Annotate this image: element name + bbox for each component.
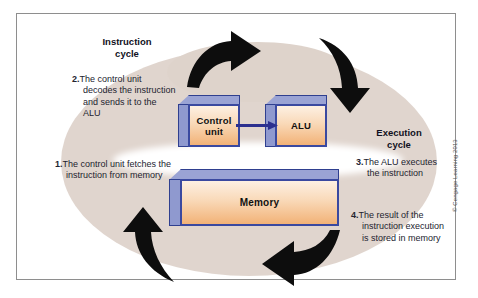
instruction-cycle-line2: cycle xyxy=(115,48,139,59)
figure-frame: Control unit ALU Memory xyxy=(16,13,456,280)
step-4-text: 4.The result of the instruction executio… xyxy=(351,210,451,244)
alu-label: ALU xyxy=(291,120,311,131)
control-unit-label-line2: unit xyxy=(205,126,223,137)
step-1-text: 1.The control unit fetches the instructi… xyxy=(55,159,175,182)
figure-canvas: Control unit ALU Memory xyxy=(0,0,478,298)
execution-cycle-line1: Execution xyxy=(376,127,421,138)
arrow-top-left-icon xyxy=(185,30,263,88)
control-unit-box: Control unit xyxy=(178,95,240,147)
control-unit-to-alu-arrow-icon xyxy=(236,116,278,125)
memory-box: Memory xyxy=(169,169,339,226)
execution-cycle-title: Execution cycle xyxy=(355,127,443,150)
control-unit-box-front-face: Control unit xyxy=(188,104,240,147)
step-3-text: 3.The ALU executes the instruction xyxy=(356,157,448,180)
step-3-body: The ALU executes the instruction xyxy=(364,157,438,178)
step-3-number: 3. xyxy=(356,157,364,167)
copyright-notice: © Cengage Learning 2013 xyxy=(452,132,458,212)
memory-label: Memory xyxy=(240,197,280,208)
instruction-cycle-title: Instruction cycle xyxy=(79,36,175,59)
step-4-number: 4. xyxy=(351,210,359,220)
control-unit-label-line1: Control xyxy=(196,115,231,126)
step-2-number: 2. xyxy=(72,74,80,84)
step-2-body: The control unit decodes the instruction… xyxy=(80,74,176,118)
memory-box-front-face: Memory xyxy=(180,179,339,226)
step-1-body: The control unit fetches the instruction… xyxy=(63,159,172,180)
instruction-cycle-line1: Instruction xyxy=(102,36,151,47)
alu-box-front-face: ALU xyxy=(275,104,327,147)
step-4-body: The result of the instruction execution … xyxy=(359,210,445,243)
execution-cycle-line2: cycle xyxy=(387,139,411,150)
arrow-bottom-right-icon xyxy=(260,228,342,290)
step-2-text: 2.The control unit decodes the instructi… xyxy=(72,74,176,120)
step-1-number: 1. xyxy=(55,159,63,169)
